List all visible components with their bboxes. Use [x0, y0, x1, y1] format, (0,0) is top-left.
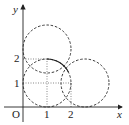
x-tick-2: 2: [68, 108, 74, 120]
axes: [4, 5, 122, 122]
origin-label: O: [12, 108, 20, 120]
y-axis-label: y: [12, 3, 18, 15]
x-axis-label: x: [116, 108, 122, 120]
y-tick-2: 2: [14, 52, 20, 64]
y-tick-1: 1: [14, 77, 20, 89]
x-tick-1: 1: [44, 108, 50, 120]
coordinate-diagram: y x O 1 2 1 2: [0, 0, 129, 125]
